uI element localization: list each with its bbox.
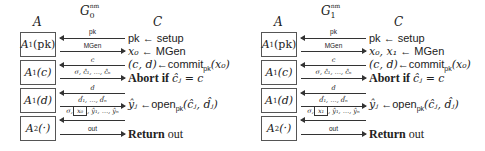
adversary-box-d: A1(d)	[261, 88, 297, 113]
challenger-line-return: Return out	[128, 127, 183, 142]
arrow-left-icon	[60, 93, 125, 94]
adversary-box-d: A1(d)	[20, 88, 56, 113]
adversary-box-pk: A1(pk)	[261, 32, 297, 57]
arrow-right-icon	[301, 78, 366, 79]
arrow-label-d: d	[60, 84, 125, 92]
arrow-left-icon	[301, 38, 366, 39]
arrow-label-mgen: MGen	[60, 42, 125, 49]
challenger-line-mgen: x₀, x₁ ← MGen	[369, 45, 444, 58]
arrow-label-sigma-x1-y: σ,x₁, ŷ₁, …, ŷₙ	[301, 107, 366, 115]
arrow-label-d-hat: d̂₁, …, d̂ₙ	[301, 96, 366, 104]
challenger-line-abort: Abort if ĉⱼ = c	[369, 71, 445, 86]
arrow-label-c: c	[60, 56, 125, 64]
arrow-left-icon	[301, 93, 366, 94]
challenger-line-abort: Abort if ĉⱼ = c	[128, 71, 204, 86]
arrow-left-icon	[301, 65, 366, 66]
arrow-label-sigma-c: σ, ĉ₁, …, ĉₙ	[60, 68, 125, 76]
game-title: G1nm	[321, 2, 340, 20]
challenger-line-open: ŷⱼ ←openpk(ĉⱼ, d̂ⱼ)	[128, 98, 218, 112]
adversary-box-output: A2(·)	[20, 116, 56, 141]
arrow-right-icon	[301, 134, 366, 135]
arrow-left-icon	[60, 38, 125, 39]
adversary-label: A	[33, 15, 42, 29]
boxed-x1: x₁	[314, 106, 328, 116]
challenger-line-open: ŷⱼ ←openpk(ĉⱼ, d̂ⱼ)	[369, 98, 459, 112]
game-1-panel: G1nm A C A1(pk) A1(c) A1(d) A2(·) pk MGe…	[241, 0, 483, 151]
arrow-label-pk: pk	[301, 28, 366, 35]
adversary-box-pk: A1(pk)	[20, 32, 56, 57]
arrow-left-icon	[301, 120, 366, 121]
arrow-label-out: out	[301, 125, 366, 132]
adversary-box-c: A1(c)	[20, 60, 56, 85]
arrow-label-out: out	[60, 125, 125, 132]
arrow-left-icon	[60, 120, 125, 121]
arrow-right-icon	[60, 134, 125, 135]
adversary-label: A	[274, 15, 283, 29]
arrow-label-d-hat: d̂₁, …, d̂ₙ	[60, 96, 125, 104]
challenger-line-setup: pk ← setup	[369, 32, 425, 44]
adversary-box-output: A2(·)	[261, 116, 297, 141]
challenger-line-mgen: x₀ ← MGen	[128, 45, 186, 58]
adversary-box-c: A1(c)	[261, 60, 297, 85]
boxed-x0: x₀	[73, 106, 87, 116]
challenger-line-setup: pk ← setup	[128, 32, 184, 44]
arrow-right-icon	[60, 78, 125, 79]
arrow-label-sigma-x0-y: σ,x₀, ŷ₁, …, ŷₙ	[60, 107, 125, 115]
arrow-label-mgen: MGen	[301, 42, 366, 49]
arrow-label-pk: pk	[60, 28, 125, 35]
arrow-label-sigma-c: σ, ĉ₁, …, ĉₙ	[301, 68, 366, 76]
arrow-right-icon	[301, 51, 366, 52]
arrow-label-c: c	[301, 56, 366, 64]
challenger-label: C	[153, 15, 162, 29]
arrow-right-icon	[60, 51, 125, 52]
arrow-left-icon	[60, 65, 125, 66]
arrow-label-d: d	[301, 84, 366, 92]
challenger-line-return: Return out	[369, 127, 424, 142]
game-title: G0nm	[80, 2, 99, 20]
challenger-label: C	[394, 15, 403, 29]
game-0-panel: G0nm A C A1(pk) A1(c) A1(d) A2(·) pk MGe…	[0, 0, 242, 151]
